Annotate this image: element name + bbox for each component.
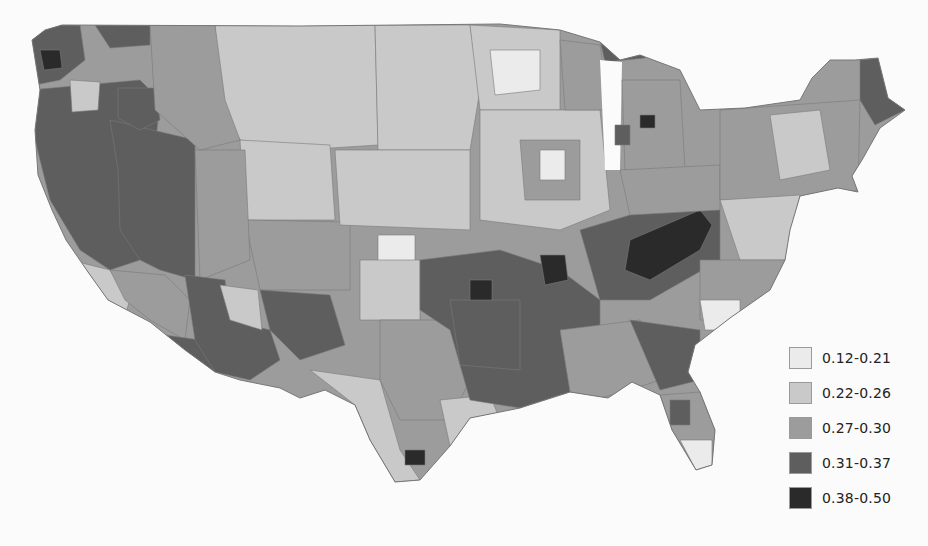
- region-tx-panhandle-light: [360, 260, 420, 320]
- legend-swatch: [789, 382, 812, 404]
- region-upper-peninsula-dark: [600, 40, 645, 62]
- region-michigan-black: [640, 115, 655, 128]
- legend-item: 0.27-0.30: [789, 410, 919, 445]
- region-dakotas: [375, 25, 480, 150]
- region-florida-dark: [670, 400, 690, 425]
- region-wyoming: [240, 140, 335, 220]
- region-mo-black: [540, 255, 568, 285]
- region-nebraska: [335, 150, 470, 230]
- legend-label: 0.27-0.30: [822, 420, 891, 436]
- region-midwest-light: [540, 150, 565, 180]
- region-utah-mid: [195, 150, 250, 280]
- region-michigan-dark: [615, 125, 630, 145]
- region-new-england-light: [770, 110, 830, 180]
- region-seattle: [40, 50, 62, 70]
- region-texas-border-dark: [405, 450, 425, 465]
- legend-label: 0.38-0.50: [822, 490, 891, 506]
- legend-item: 0.38-0.50: [789, 480, 919, 515]
- legend-label: 0.12-0.21: [822, 350, 891, 366]
- region-florida-south: [680, 440, 712, 470]
- legend-label: 0.31-0.37: [822, 455, 891, 471]
- legend-swatch: [789, 417, 812, 439]
- region-ohio-indiana: [620, 165, 720, 215]
- legend-label: 0.22-0.26: [822, 385, 891, 401]
- region-montana-east: [215, 25, 378, 150]
- legend-swatch: [789, 452, 812, 474]
- legend-swatch: [789, 487, 812, 509]
- region-colorado: [245, 220, 350, 290]
- legend-item: 0.31-0.37: [789, 445, 919, 480]
- region-wa-light: [70, 80, 100, 112]
- legend-item: 0.22-0.26: [789, 375, 919, 410]
- legend-item: 0.12-0.21: [789, 340, 919, 375]
- map-legend: 0.12-0.21 0.22-0.26 0.27-0.30 0.31-0.37 …: [789, 340, 919, 515]
- legend-swatch: [789, 347, 812, 369]
- region-mn-light-pockets: [490, 50, 540, 95]
- region-east-texas-dark: [450, 300, 520, 370]
